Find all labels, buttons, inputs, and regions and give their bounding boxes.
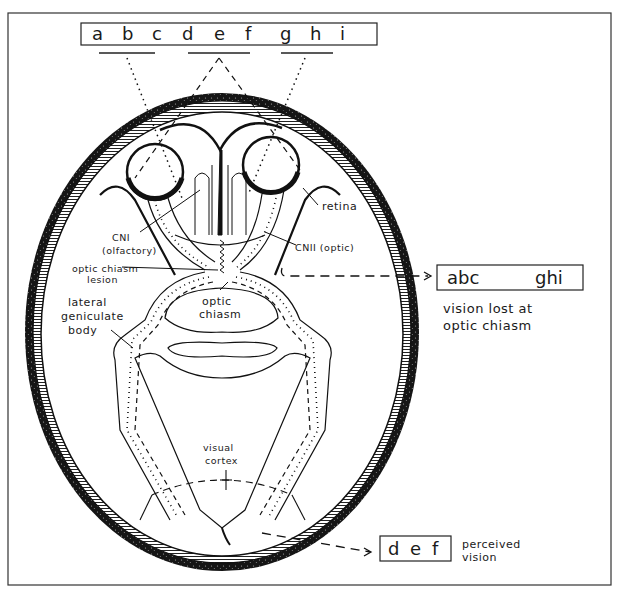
field-letter-g: g <box>280 23 291 44</box>
label-cn2-optic: CNII (optic) <box>295 242 354 253</box>
visual-field-box: a b c d e f g h i <box>81 23 377 53</box>
lost-letters-left: abc <box>447 267 479 288</box>
perceived-caption-line1: perceived <box>462 538 521 551</box>
label-lgb-line2: geniculate <box>61 310 124 323</box>
label-cortex-line2: cortex <box>205 455 238 466</box>
label-lgb-line1: lateral <box>68 296 107 309</box>
lost-caption-line2: optic chiasm <box>443 318 532 333</box>
field-letter-e: e <box>214 23 225 44</box>
field-letter-h: h <box>310 23 321 44</box>
left-eye <box>127 144 183 200</box>
perceived-caption-line2: vision <box>462 551 497 564</box>
label-cn1-olfactory: (olfactory) <box>102 245 157 256</box>
field-letter-d: d <box>182 23 193 44</box>
lost-letters-right: ghi <box>535 267 563 288</box>
right-eye <box>243 137 299 193</box>
label-chiasm-line1: optic <box>202 295 232 308</box>
field-letter-c: c <box>152 23 162 44</box>
field-letter-i: i <box>340 23 345 44</box>
label-lesion-line1: optic chiasm <box>72 263 138 274</box>
label-lesion-line2: lesion <box>87 274 118 285</box>
lost-caption-line1: vision lost at <box>443 301 533 316</box>
field-letter-a: a <box>92 23 103 44</box>
label-chiasm-line2: chiasm <box>199 308 241 321</box>
label-retina: retina <box>322 200 357 213</box>
label-cn1: CNI <box>112 232 130 243</box>
field-letter-b: b <box>122 23 133 44</box>
label-cortex-line1: visual <box>203 442 234 453</box>
perceived-letter-e: e <box>410 538 421 559</box>
field-letter-f: f <box>245 23 252 44</box>
perceived-letter-d: d <box>388 538 399 559</box>
perceived-letter-f: f <box>432 538 439 559</box>
label-lgb-line3: body <box>68 324 97 337</box>
visual-pathway-diagram: a b c d e f g h i retina CNII (optic) CN… <box>0 0 619 593</box>
